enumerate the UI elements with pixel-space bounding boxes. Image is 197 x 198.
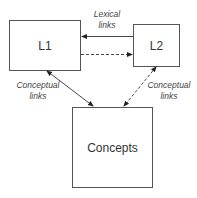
conceptual-links-right-label-line2: links [160,91,178,101]
node-l2-label: L2 [150,39,164,53]
lexical-links-label-line1: Lexical [94,9,122,19]
bilingual-model-diagram: L1 L2 Concepts Lexical links Conceptual … [0,0,197,198]
node-concepts: Concepts [73,108,153,188]
node-l2: L2 [134,25,180,67]
conceptual-links-right-label-line1: Conceptual [147,80,191,90]
conceptual-links-left-label-line2: links [29,91,47,101]
node-l1-label: L1 [38,39,52,53]
conceptual-links-left-label-line1: Conceptual [16,80,60,90]
node-concepts-label: Concepts [87,141,138,155]
node-l1: L1 [10,21,81,71]
lexical-links-label-line2: links [98,20,116,30]
